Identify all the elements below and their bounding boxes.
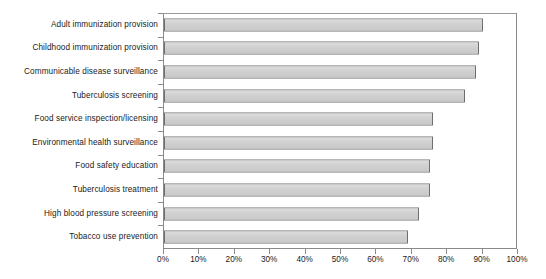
- bar-fill: [165, 43, 478, 54]
- y-axis-tick: [158, 84, 163, 85]
- y-axis-tick: [158, 131, 163, 132]
- x-axis-tick: [446, 249, 447, 254]
- bar-row: Environmental health surveillance: [0, 131, 546, 155]
- x-axis-tick-label: 90%: [473, 256, 489, 264]
- bar-fill: [165, 66, 475, 77]
- category-label: High blood pressure screening: [44, 209, 158, 217]
- x-axis-tick-label: 0%: [157, 256, 169, 264]
- category-label: Tobacco use prevention: [69, 233, 158, 241]
- x-axis-tick: [375, 249, 376, 254]
- bar: [164, 207, 419, 220]
- bar-rows: Adult immunization provisionChildhood im…: [0, 13, 546, 249]
- bar-row: Tobacco use prevention: [0, 225, 546, 249]
- bar-row: Childhood immunization provision: [0, 37, 546, 61]
- x-axis-tick-label: 30%: [261, 256, 277, 264]
- x-axis-tick: [163, 249, 164, 254]
- bar: [164, 18, 483, 31]
- bar-fill: [165, 19, 482, 30]
- x-axis-tick: [517, 249, 518, 254]
- bar-fill: [165, 184, 429, 195]
- bar: [164, 42, 479, 55]
- bar: [164, 113, 433, 126]
- bar: [164, 89, 465, 102]
- bar: [164, 65, 476, 78]
- bar-row: Adult immunization provision: [0, 13, 546, 37]
- bar: [164, 231, 408, 244]
- x-axis-tick: [269, 249, 270, 254]
- y-axis-tick: [158, 178, 163, 179]
- category-label: Food service inspection/licensing: [35, 115, 158, 123]
- category-label: Childhood immunization provision: [32, 44, 158, 52]
- bar: [164, 160, 430, 173]
- category-label: Food safety education: [75, 162, 158, 170]
- x-axis-tick-label: 10%: [190, 256, 206, 264]
- bar-row: Tuberculosis screening: [0, 84, 546, 108]
- y-axis-tick: [158, 155, 163, 156]
- bar-fill: [165, 232, 407, 243]
- category-label: Communicable disease surveillance: [24, 68, 158, 76]
- category-label: Environmental health surveillance: [32, 139, 158, 147]
- y-axis-tick: [158, 13, 163, 14]
- bar-fill: [165, 90, 464, 101]
- x-axis-tick-label: 20%: [226, 256, 242, 264]
- x-axis-tick: [234, 249, 235, 254]
- x-axis-tick-label: 100%: [507, 256, 528, 264]
- x-axis-tick-label: 40%: [296, 256, 312, 264]
- bar-fill: [165, 137, 432, 148]
- bar-fill: [165, 161, 429, 172]
- x-axis-tick-label: 60%: [367, 256, 383, 264]
- y-axis-tick: [158, 202, 163, 203]
- x-axis-tick-label: 50%: [332, 256, 348, 264]
- y-axis-tick: [158, 37, 163, 38]
- x-axis-tick: [411, 249, 412, 254]
- category-label: Adult immunization provision: [51, 21, 158, 29]
- bar-fill: [165, 114, 432, 125]
- bar-row: Tuberculosis treatment: [0, 178, 546, 202]
- bar-fill: [165, 208, 418, 219]
- y-axis-tick: [158, 107, 163, 108]
- category-label: Tuberculosis screening: [72, 91, 158, 99]
- x-axis-tick: [340, 249, 341, 254]
- bar-chart: Adult immunization provisionChildhood im…: [0, 0, 546, 279]
- category-label: Tuberculosis treatment: [73, 186, 158, 194]
- bar-row: High blood pressure screening: [0, 202, 546, 226]
- x-axis-tick-label: 80%: [438, 256, 454, 264]
- bar-row: Food safety education: [0, 155, 546, 179]
- bar-row: Food service inspection/licensing: [0, 107, 546, 131]
- x-axis-tick: [198, 249, 199, 254]
- y-axis-tick: [158, 60, 163, 61]
- bar: [164, 183, 430, 196]
- y-axis-tick: [158, 225, 163, 226]
- x-axis: 0%10%20%30%40%50%60%70%80%90%100%: [0, 249, 546, 279]
- x-axis-tick: [482, 249, 483, 254]
- x-axis-tick: [305, 249, 306, 254]
- x-axis-tick-label: 70%: [403, 256, 419, 264]
- bar-row: Communicable disease surveillance: [0, 60, 546, 84]
- bar: [164, 136, 433, 149]
